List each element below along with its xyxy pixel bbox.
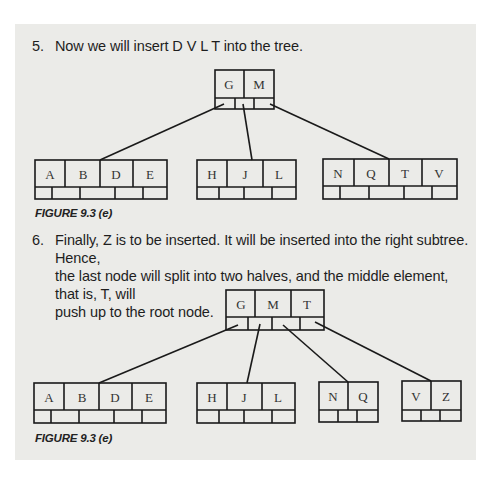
key: E <box>145 390 153 405</box>
key: B <box>78 390 87 405</box>
key: A <box>44 390 54 405</box>
key: M <box>267 297 279 312</box>
key: H <box>207 390 216 405</box>
key: D <box>110 390 119 405</box>
figure-2-caption: FIGURE 9.3 (e) <box>35 432 112 444</box>
key: T <box>303 297 311 312</box>
key: N <box>328 389 338 404</box>
edge-root2-leaf2 <box>247 324 260 383</box>
key: Z <box>442 389 450 404</box>
key: Q <box>358 389 368 404</box>
key: V <box>411 389 421 404</box>
key: L <box>274 390 282 405</box>
key: J <box>241 390 246 405</box>
edge-root2-leaf1 <box>99 325 238 383</box>
key: G <box>236 297 245 312</box>
btree-figure-2: G M T A B D E H J L N Q V Z <box>0 0 495 478</box>
edge-root2-leaf4 <box>315 322 431 381</box>
